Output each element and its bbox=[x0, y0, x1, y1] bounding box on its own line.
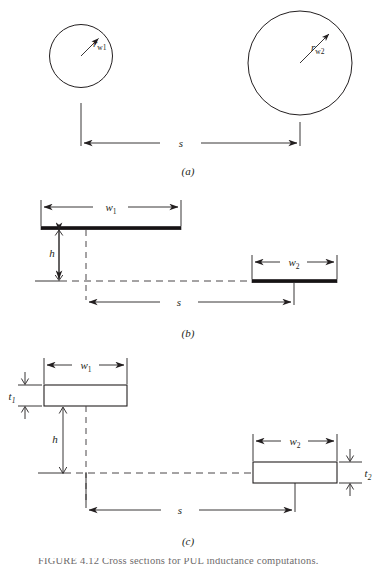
w1-label-b: w1 bbox=[105, 201, 116, 216]
panel-label-a: (a) bbox=[182, 165, 195, 178]
figure-caption-text: FIGURE 4.12 Cross sections for PUL induc… bbox=[38, 558, 319, 566]
panel-label-c: (c) bbox=[182, 535, 195, 548]
bar-1-c bbox=[44, 385, 127, 406]
bar-2-c bbox=[253, 462, 337, 483]
panel-a: rw1 rw2 s (a) bbox=[50, 11, 353, 178]
height-label-b: h bbox=[49, 247, 55, 259]
separation-label-a: s bbox=[179, 137, 183, 149]
w1-label-c: w1 bbox=[80, 359, 91, 374]
w2-label-b: w2 bbox=[288, 256, 299, 271]
panel-c: w1 t1 h bbox=[9, 358, 372, 548]
radius-1-label: rw1 bbox=[93, 37, 107, 52]
panel-label-b: (b) bbox=[182, 327, 195, 340]
separation-label-b: s bbox=[177, 296, 181, 308]
figure-caption-clipped: FIGURE 4.12 Cross sections for PUL induc… bbox=[0, 558, 377, 566]
height-label-c: h bbox=[52, 433, 58, 445]
strip-2-b bbox=[252, 280, 337, 283]
strip-1-b bbox=[41, 227, 181, 230]
t2-label-c: t2 bbox=[365, 467, 372, 482]
separation-label-c: s bbox=[178, 504, 182, 516]
technical-figure: rw1 rw2 s (a) bbox=[0, 0, 377, 566]
panel-b: w1 h w2 bbox=[35, 200, 337, 340]
t1-label-c: t1 bbox=[9, 390, 16, 405]
figure-container: rw1 rw2 s (a) bbox=[0, 0, 377, 566]
w2-label-c: w2 bbox=[289, 435, 300, 450]
radius-2-label: rw2 bbox=[311, 41, 325, 56]
